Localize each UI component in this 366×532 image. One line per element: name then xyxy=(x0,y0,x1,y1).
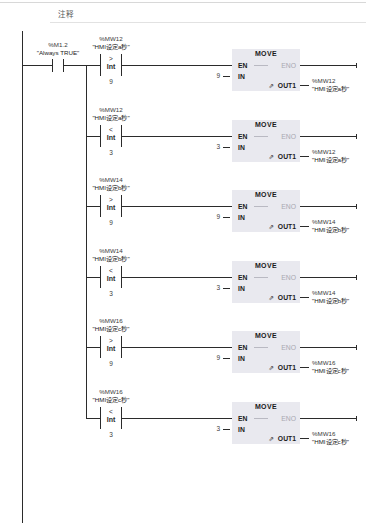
rung-2-compare-operand: 3 xyxy=(96,149,126,156)
rung-5-move-out-symbol: "HMI设定c秒" xyxy=(312,367,349,375)
rung-1-compare-operand: 9 xyxy=(96,78,126,85)
contact-bar-left xyxy=(52,59,53,72)
rung-5-compare-operand: 9 xyxy=(96,360,126,367)
rung-2-rung-terminator xyxy=(356,134,357,139)
rung-5-move-out-tag: %MW16"HMI设定c秒" xyxy=(312,359,349,375)
move-out-prefix-icon: ⇗ xyxy=(269,82,274,90)
rung-4-eno-connector xyxy=(254,277,268,278)
rung-4-wire-in-value xyxy=(223,288,230,289)
rung-6-move-out-address: %MW16 xyxy=(312,430,349,438)
rung-1-wire-eno-to-end xyxy=(300,65,356,66)
rung-1-compare-tag: %MW12"HMI设定a秒" xyxy=(71,35,151,51)
rung-4-compare-address: %MW14 xyxy=(71,247,151,255)
rung-3-move-block[interactable]: MOVEENENOIN⇗OUT1 xyxy=(232,190,300,232)
move-eno-label: ENO xyxy=(281,203,296,210)
start-contact-normally-open[interactable] xyxy=(52,59,64,72)
rung-3-move-out-address: %MW14 xyxy=(312,218,349,226)
move-en-label: EN xyxy=(238,415,247,422)
rung-1-wire-branch-to-compare xyxy=(86,65,100,66)
rung-6-compare-symbol: "HMI设定c秒" xyxy=(71,396,151,404)
rung-5-wire-compare-to-move xyxy=(122,347,232,348)
rung-3-compare-address: %MW14 xyxy=(71,176,151,184)
rung-1-move-out-tag: %MW12"HMI设定a秒" xyxy=(312,77,349,93)
rung-4-move-block[interactable]: MOVEENENOIN⇗OUT1 xyxy=(232,261,300,303)
rung-3-compare-operand: 9 xyxy=(96,219,126,226)
move-out-prefix-icon: ⇗ xyxy=(269,435,274,443)
rung-4-move-out-address: %MW14 xyxy=(312,289,349,297)
move-out-label: OUT1 xyxy=(278,153,296,160)
rung-3-wire-branch-to-compare xyxy=(86,206,100,207)
rung-1-compare-datatype: Int xyxy=(100,62,122,72)
move-block-title: MOVE xyxy=(232,50,300,57)
wire-contact-to-branch xyxy=(64,65,86,66)
wire-rail-to-start-contact xyxy=(22,65,52,66)
move-out-label: OUT1 xyxy=(278,435,296,442)
move-eno-label: ENO xyxy=(281,415,296,422)
rung-1-move-block[interactable]: MOVEENENOIN⇗OUT1 xyxy=(232,49,300,91)
rung-6-compare-instruction[interactable]: <Int3 xyxy=(100,407,122,429)
move-out-label: OUT1 xyxy=(278,364,296,371)
rung-1-wire-out1 xyxy=(300,85,309,86)
rung-2-move-out-address: %MW12 xyxy=(312,148,349,156)
rung-4-compare-instruction[interactable]: <Int3 xyxy=(100,266,122,288)
rung-2-wire-eno-to-end xyxy=(300,136,356,137)
rung-3-wire-out1 xyxy=(300,226,309,227)
rung-1-move-out-address: %MW12 xyxy=(312,77,349,85)
rung-1-compare-symbol: "HMI设定a秒" xyxy=(71,43,151,51)
move-en-label: EN xyxy=(238,203,247,210)
move-out-label: OUT1 xyxy=(278,82,296,89)
rung-5-wire-branch-to-compare xyxy=(86,347,100,348)
rung-4-compare-symbol: "HMI设定b秒" xyxy=(71,255,151,263)
move-block-title: MOVE xyxy=(232,262,300,269)
rung-2-wire-in-value xyxy=(223,147,230,148)
move-out-prefix-icon: ⇗ xyxy=(269,364,274,372)
rung-1-compare-address: %MW12 xyxy=(71,35,151,43)
rung-3-wire-eno-to-end xyxy=(300,206,356,207)
rung-2-compare-datatype: Int xyxy=(100,133,122,143)
rung-3-compare-instruction[interactable]: >Int9 xyxy=(100,195,122,217)
rung-4-compare-datatype: Int xyxy=(100,274,122,284)
rung-2-move-block[interactable]: MOVEENENOIN⇗OUT1 xyxy=(232,120,300,162)
rung-5-move-out-address: %MW16 xyxy=(312,359,349,367)
rung-3-move-out-symbol: "HMI设定b秒" xyxy=(312,226,349,234)
ladder-network-canvas[interactable]: %M1.2"Always TRUE">Int9%MW12"HMI设定a秒"MOV… xyxy=(0,0,366,532)
rung-4-compare-tag: %MW14"HMI设定b秒" xyxy=(71,247,151,263)
rung-6-compare-address: %MW16 xyxy=(71,388,151,396)
move-en-label: EN xyxy=(238,62,247,69)
rung-4-wire-out1 xyxy=(300,297,309,298)
rung-6-move-block[interactable]: MOVEENENOIN⇗OUT1 xyxy=(232,402,300,444)
rung-6-rung-terminator xyxy=(356,416,357,421)
rung-5-compare-datatype: Int xyxy=(100,344,122,354)
rung-3-eno-connector xyxy=(254,206,268,207)
rung-1-move-out-symbol: "HMI设定a秒" xyxy=(312,85,349,93)
compare-bars: >Int9 xyxy=(100,336,122,358)
rung-5-wire-out1 xyxy=(300,367,309,368)
rung-6-wire-in-value xyxy=(223,429,230,430)
move-en-label: EN xyxy=(238,274,247,281)
rung-2-move-out-symbol: "HMI设定a秒" xyxy=(312,156,349,164)
compare-bars: <Int3 xyxy=(100,125,122,147)
rung-6-move-in-value: 3 xyxy=(206,425,220,432)
rung-5-move-in-value: 9 xyxy=(206,354,220,361)
rung-6-wire-compare-to-move xyxy=(122,418,232,419)
move-en-label: EN xyxy=(238,133,247,140)
rung-2-move-out-tag: %MW12"HMI设定a秒" xyxy=(312,148,349,164)
rung-5-move-block[interactable]: MOVEENENOIN⇗OUT1 xyxy=(232,331,300,373)
rung-2-wire-out1 xyxy=(300,156,309,157)
rung-2-compare-symbol: "HMI设定a秒" xyxy=(71,114,151,122)
rung-5-compare-instruction[interactable]: >Int9 xyxy=(100,336,122,358)
rung-1-wire-in-value xyxy=(223,76,230,77)
move-block-title: MOVE xyxy=(232,403,300,410)
compare-bars: >Int9 xyxy=(100,54,122,76)
rung-3-wire-in-value xyxy=(223,217,230,218)
move-en-label: EN xyxy=(238,344,247,351)
move-in-label: IN xyxy=(238,144,245,151)
rung-3-compare-tag: %MW14"HMI设定b秒" xyxy=(71,176,151,192)
rung-6-compare-operand: 3 xyxy=(96,431,126,438)
rung-5-compare-tag: %MW16"HMI设定c秒" xyxy=(71,317,151,333)
rung-2-compare-instruction[interactable]: <Int3 xyxy=(100,125,122,147)
rung-1-compare-instruction[interactable]: >Int9 xyxy=(100,54,122,76)
rung-6-eno-connector xyxy=(254,418,268,419)
rung-4-rung-terminator xyxy=(356,275,357,280)
rung-1-rung-terminator xyxy=(356,63,357,68)
